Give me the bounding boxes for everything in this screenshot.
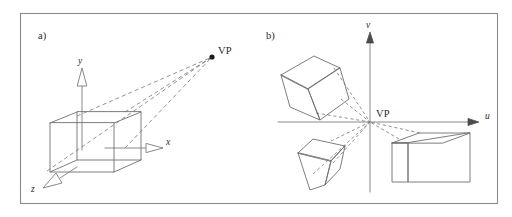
figure-border [21,14,498,204]
ray-b-8 [370,122,420,133]
ray-b-3 [341,99,370,122]
ray-b-7 [370,122,399,139]
ray-b-4 [331,122,370,141]
panel-b-box-upper-left [281,56,349,120]
panel-b-perspective-rays [313,68,420,174]
figure-root: VP y x z [0,0,512,217]
vanishing-point-label-b: VP [376,108,390,119]
x-axis-arrowhead [146,143,163,152]
box-ll-right-face [325,146,345,185]
vanishing-point-dot-a [209,54,214,59]
z-axis-label: z [30,184,35,194]
panel-a: VP y x z [30,30,232,194]
panel-a-box [50,112,141,172]
ray-a-1 [77,57,212,116]
y-axis-label: y [77,56,83,66]
v-axis-arrowhead [366,32,373,43]
panel-b-label: b) [266,30,275,42]
u-axis-label: u [485,111,490,121]
box-ul-left-face [281,75,320,120]
ray-b-2 [334,68,370,122]
ray-a-3 [125,57,212,148]
box-a-back-face [77,112,141,160]
box-a-edge-br [114,160,141,172]
ray-a-2 [125,57,212,112]
u-axis-arrowhead [468,118,479,125]
box-lr-left-face [392,143,408,182]
box-ul-top-face [281,56,340,89]
ray-b-5 [333,122,370,163]
box-ul-right-face [308,68,349,120]
panel-b-box-lower-right [392,133,470,182]
box-lr-front-face [408,133,470,182]
v-axis-label: v [366,20,371,30]
z-axis-line [60,167,77,178]
vanishing-point-label-a: VP [218,45,232,56]
box-a-edge-tl [50,112,77,123]
panel-b-box-lower-left [298,139,345,190]
panel-b: u v [266,20,490,192]
ray-b-6 [313,122,370,174]
z-axis-arrowhead [43,173,62,188]
panel-a-label: a) [38,30,47,42]
x-axis-label: x [165,137,171,147]
box-a-edge-tr [114,112,141,123]
perspective-figure: VP y x z [0,0,512,217]
y-axis-arrowhead [77,68,87,86]
